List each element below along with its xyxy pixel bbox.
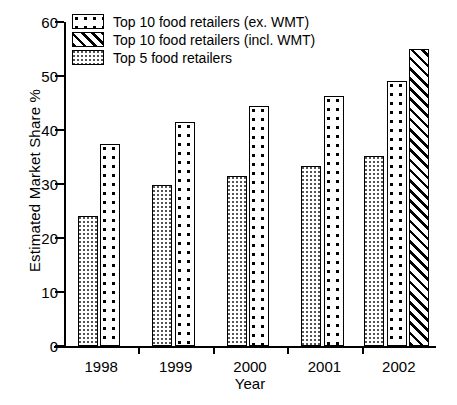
y-tick-label: 0 (50, 339, 58, 354)
y-tick-label: 50 (41, 69, 58, 84)
x-tick-label: 2000 (233, 358, 266, 375)
bar-top10-ex-wmt (175, 122, 195, 346)
x-axis-line (54, 346, 436, 348)
bar-top5 (227, 176, 247, 346)
y-axis-line (64, 22, 66, 346)
bar-top10-ex-wmt (100, 144, 120, 347)
y-tick-label: 10 (41, 285, 58, 300)
bar-chart: Estimated Market Share % Top 10 food ret… (0, 0, 457, 405)
bar-top10-incl-wmt (409, 49, 429, 346)
plot-area: 0102030405060 19981999200020012002 (64, 22, 436, 346)
x-tick-label: 1999 (159, 358, 192, 375)
y-tick-label: 60 (41, 15, 58, 30)
x-tick (138, 346, 140, 354)
y-axis-title: Estimated Market Share % (26, 61, 43, 301)
bar-top10-ex-wmt (249, 106, 269, 346)
x-tick (287, 346, 289, 354)
x-tick (362, 346, 364, 354)
x-tick-label: 2001 (308, 358, 341, 375)
y-tick-label: 20 (41, 231, 58, 246)
x-tick-label: 2002 (382, 358, 415, 375)
bar-top5 (152, 185, 172, 346)
x-tick-label: 1998 (85, 358, 118, 375)
y-tick-label: 30 (41, 177, 58, 192)
bar-top5 (301, 166, 321, 346)
x-tick (213, 346, 215, 354)
x-axis-title: Year (64, 375, 436, 392)
bar-top5 (78, 216, 98, 346)
bar-top10-ex-wmt (387, 81, 407, 346)
y-tick-label: 40 (41, 123, 58, 138)
bar-top10-ex-wmt (324, 96, 344, 346)
bar-top5 (364, 156, 384, 346)
